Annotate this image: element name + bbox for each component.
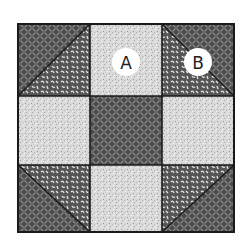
patch-center — [90, 96, 162, 165]
patch-middle-right — [162, 96, 234, 165]
patch-bottom-right — [162, 165, 234, 232]
patch-bottom-left — [18, 165, 90, 232]
svg-text:A: A — [120, 53, 132, 73]
patch-bottom-center — [90, 165, 162, 232]
svg-text:B: B — [192, 53, 204, 73]
label-a: A — [112, 48, 140, 76]
quilt-block-diagram: A B — [0, 0, 248, 241]
patch-middle-left — [18, 96, 90, 165]
label-b: B — [184, 48, 212, 76]
patch-top-left — [18, 24, 90, 96]
